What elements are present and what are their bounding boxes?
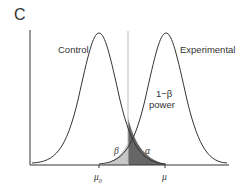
mu0-tick-label: μ0 (94, 172, 102, 184)
control-curve (32, 33, 166, 164)
experimental-label: Experimental (180, 44, 235, 55)
control-label: Control (58, 44, 89, 55)
power-chart (0, 0, 243, 190)
beta-label: β (114, 146, 119, 156)
alpha-label: α (145, 146, 150, 156)
mu-tick-label: μ (162, 172, 167, 182)
power-label-2: power (149, 99, 175, 110)
power-label-1: 1−β (156, 88, 172, 99)
